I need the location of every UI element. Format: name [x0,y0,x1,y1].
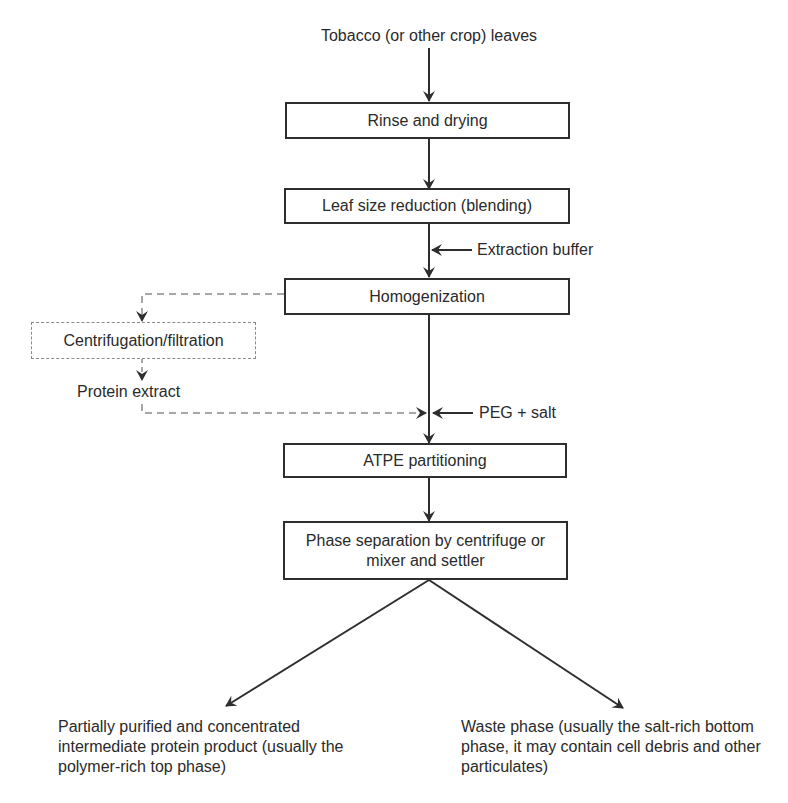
product-output-label: Partially purified and concentrated inte… [58,717,388,777]
step-label: Centrifugation/filtration [63,331,223,351]
step-centrifugation-filtration: Centrifugation/filtration [31,322,256,359]
step-homogenization: Homogenization [284,278,570,315]
peg-salt-label: PEG + salt [479,403,556,423]
step-label: Leaf size reduction (blending) [322,196,532,216]
input-label: Tobacco (or other crop) leaves [290,26,568,46]
extraction-buffer-label: Extraction buffer [477,240,593,260]
waste-output-label: Waste phase (usually the salt-rich botto… [461,717,761,777]
step-label: Rinse and drying [367,111,487,131]
arrow-phase-sep-to-product [226,580,429,706]
arrow-phase-sep-to-waste [429,580,623,708]
step-phase-separation: Phase separation by centrifuge or mixer … [283,521,568,580]
step-atpe-partitioning: ATPE partitioning [283,443,567,478]
step-label: Phase separation by centrifuge or mixer … [295,531,556,571]
dashed-line-homog-to-centrifugation [142,294,284,321]
step-rinse-and-drying: Rinse and drying [285,102,570,139]
step-label: Homogenization [369,287,485,307]
step-leaf-size-reduction: Leaf size reduction (blending) [284,188,570,224]
dashed-line-extract-to-atpe [142,404,426,413]
protein-extract-label: Protein extract [77,382,180,402]
step-label: ATPE partitioning [363,451,486,471]
